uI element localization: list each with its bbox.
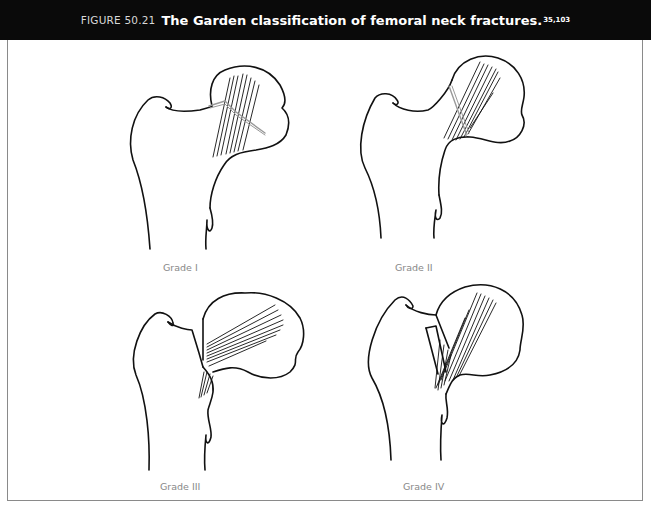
panel-label-grade-1: Grade I	[163, 262, 198, 273]
femur-grade-4	[369, 285, 524, 460]
femur-grade-1	[131, 66, 289, 249]
femur-illustrations	[0, 0, 651, 508]
femur-grade-3	[133, 293, 303, 470]
panel-label-grade-2: Grade II	[395, 262, 433, 273]
femur-grade-2	[361, 56, 525, 238]
panel-label-grade-3: Grade III	[160, 481, 200, 492]
panel-label-grade-4: Grade IV	[403, 481, 444, 492]
